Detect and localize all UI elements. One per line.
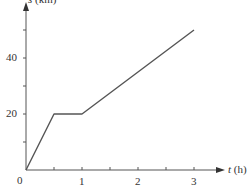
x-axis-unit: (h): [231, 163, 247, 175]
x-tick-label-1: 1: [79, 176, 85, 187]
x-tick-label-3: 3: [191, 176, 197, 187]
y-axis-label: s (km): [28, 0, 56, 5]
x-tick-label-2: 2: [135, 176, 141, 187]
origin-label: 0: [17, 175, 23, 186]
x-axis-arrow-icon: [216, 167, 225, 173]
y-tick-label-40: 40: [6, 52, 17, 63]
y-axis-unit: (km): [32, 0, 56, 5]
y-tick-label-20: 20: [6, 108, 17, 119]
x-axis-label: t (h): [228, 164, 247, 175]
distance-line: [26, 30, 194, 170]
chart-canvas: [0, 0, 248, 188]
